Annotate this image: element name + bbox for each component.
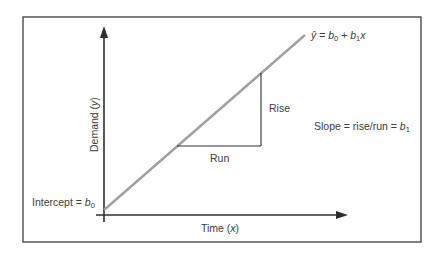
slope-text: Slope = rise/run = — [314, 120, 400, 132]
intercept-text: Intercept = — [32, 196, 85, 208]
y-axis-label-close: ) — [88, 97, 100, 101]
y-axis-label: Demand (y) — [88, 97, 100, 152]
y-axis-label-text: Demand ( — [88, 106, 100, 152]
x-axis-label-close: ) — [236, 222, 240, 234]
x-symbol: x — [360, 29, 365, 41]
intercept-annotation: Intercept = b0 — [32, 196, 95, 210]
equals-sign: = — [316, 29, 328, 41]
run-label: Run — [210, 152, 229, 164]
y-axis-label-var: y — [88, 101, 100, 106]
x-axis-label: Time (x) — [201, 222, 239, 234]
slope-annotation: Slope = rise/run = b1 — [314, 120, 410, 134]
slope-subscript: 1 — [406, 125, 410, 134]
regression-line — [104, 35, 305, 210]
x-axis-arrow-icon — [336, 211, 348, 219]
plus-sign: + — [338, 29, 350, 41]
rise-label: Rise — [269, 102, 290, 114]
x-axis-label-text: Time ( — [201, 222, 230, 234]
intercept-subscript: 0 — [91, 201, 95, 210]
regression-equation: ŷ = b0 + b1x — [311, 29, 365, 43]
y-axis-arrow-icon — [100, 26, 108, 38]
